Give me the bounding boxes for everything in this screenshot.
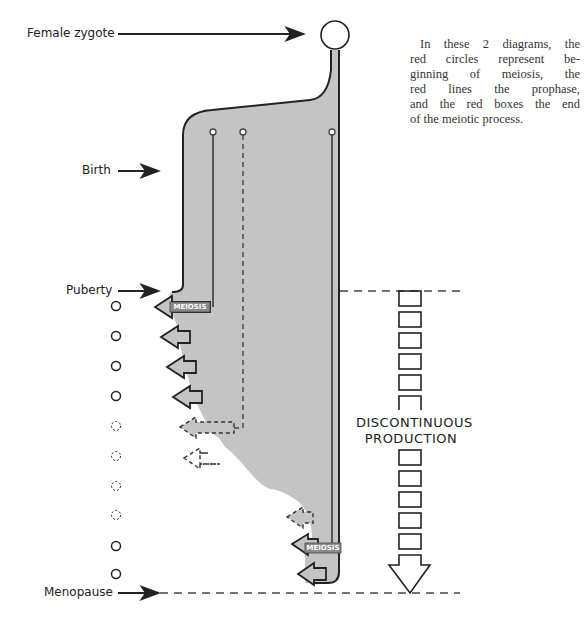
birth-label: Birth [82,163,111,177]
meiosis-start-circle [210,129,216,135]
meiosis-label: MEIOSIS [305,543,341,553]
discontinuous-label: DISCONTINUOUS [356,415,466,430]
note-line: In these 2 diagrams, the [410,37,580,52]
zygote-circle [321,21,349,49]
menopause-arrow [118,587,158,599]
birth-arrow [118,165,158,177]
female-zygote-arrow [118,28,303,40]
puberty-arrow [118,285,158,297]
ovulation-circles [112,302,121,579]
germ-cell-pool [169,50,339,583]
note-line: red circles represent be- [410,52,580,67]
note-line: and the red boxes the end [410,97,580,112]
meiosis-start-circle [240,129,246,135]
legend-note: In these 2 diagrams, the red circles rep… [410,37,580,127]
note-line: of the meiotic process. [410,112,580,127]
female-zygote-label: Female zygote [27,26,115,40]
meiosis-start-circle [329,129,335,135]
note-line: ginning of meiosis, the [410,67,580,82]
puberty-label: Puberty [66,283,112,297]
production-down-arrow [389,555,430,593]
meiosis-label: MEIOSIS [170,302,210,312]
note-line: red lines the prophase, [410,82,580,97]
menopause-label: Menopause [44,585,113,599]
production-label: PRODUCTION [356,431,466,446]
